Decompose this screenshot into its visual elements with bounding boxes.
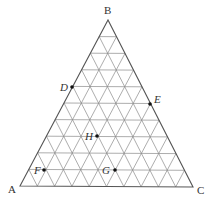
vertex-label-b: B (104, 4, 111, 16)
grid-line (46, 136, 167, 137)
grid-line (107, 104, 151, 187)
point-label-d: D (59, 81, 68, 93)
points: D E H F G (33, 81, 161, 176)
grid-line (55, 120, 159, 121)
point-d-marker (70, 85, 74, 89)
point-g-marker (113, 168, 117, 172)
point-label-f: F (33, 164, 41, 176)
grid-line (64, 103, 107, 187)
point-f-marker (42, 168, 46, 172)
point-e-marker (148, 102, 152, 106)
grid-line (176, 170, 185, 187)
grid-line (82, 70, 142, 187)
point-label-e: E (153, 93, 161, 105)
grid-line (99, 37, 176, 187)
grid-line (64, 103, 151, 104)
ternary-diagram: A B C D E H F G (0, 0, 213, 204)
point-h-marker (95, 134, 99, 138)
vertex-label-c: C (197, 184, 204, 196)
point-label-g: G (102, 164, 110, 176)
vertex-label-a: A (8, 183, 16, 195)
point-label-h: H (84, 130, 94, 142)
